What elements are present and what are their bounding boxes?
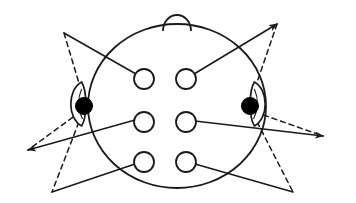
eeg-head-diagram — [0, 0, 356, 203]
reference-electrode-A1[interactable] — [76, 98, 93, 115]
scalp-electrode-C3[interactable] — [134, 112, 154, 132]
scalp-electrode-F3[interactable] — [134, 69, 154, 89]
diagram-canvas — [0, 0, 356, 203]
scalp-electrode-P4[interactable] — [176, 152, 196, 172]
scalp-electrode-C4[interactable] — [176, 112, 196, 132]
scalp-electrode-F4[interactable] — [176, 69, 196, 89]
scalp-electrode-P3[interactable] — [134, 152, 154, 172]
reference-electrode-A2[interactable] — [242, 98, 259, 115]
